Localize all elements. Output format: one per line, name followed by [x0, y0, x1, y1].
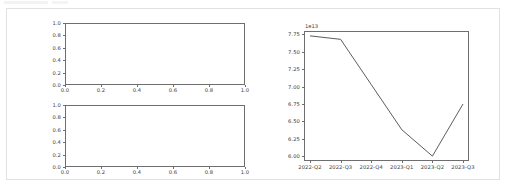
quarterly-line-chart: 1e136.006.256.506.757.007.257.507.752022… — [254, 9, 501, 180]
truncated-toolbar-strip — [0, 0, 508, 6]
x-tick-label: 0.8 — [197, 169, 221, 175]
lower-empty-axes — [65, 105, 245, 167]
x-tick-label: 0.2 — [89, 87, 113, 93]
x-tick-mark — [245, 167, 246, 169]
y-tick-mark — [63, 35, 65, 36]
y-tick-label: 0.8 — [41, 32, 61, 38]
y-tick-label: 0.2 — [41, 70, 61, 76]
notebook-output-cell: 0.00.20.40.60.81.00.00.20.40.60.81.00.00… — [6, 8, 500, 180]
x-tick-mark — [101, 85, 102, 87]
y-tick-label: 0.2 — [41, 152, 61, 158]
x-tick-mark — [209, 85, 210, 87]
x-tick-mark — [65, 85, 66, 87]
y-tick-mark — [63, 130, 65, 131]
y-tick-label: 0.6 — [41, 45, 61, 51]
x-tick-label: 0.0 — [53, 169, 77, 175]
figures-row: 0.00.20.40.60.81.00.00.20.40.60.81.00.00… — [7, 9, 499, 179]
x-tick-mark — [101, 167, 102, 169]
toolbar-ghost-item — [4, 1, 48, 4]
x-tick-mark — [173, 167, 174, 169]
y-tick-mark — [63, 23, 65, 24]
x-tick-label: 0.6 — [161, 169, 185, 175]
x-tick-label: 0.4 — [125, 169, 149, 175]
y-tick-label: 0.4 — [41, 57, 61, 63]
toolbar-ghost-item-secondary — [52, 1, 68, 4]
x-tick-label: 0.2 — [89, 169, 113, 175]
x-tick-mark — [137, 167, 138, 169]
y-tick-label: 0.8 — [41, 114, 61, 120]
chart-line-series — [254, 9, 501, 180]
y-tick-label: 1.0 — [41, 20, 61, 26]
x-tick-mark — [245, 85, 246, 87]
series-value-polyline — [310, 36, 463, 156]
x-tick-mark — [173, 85, 174, 87]
y-tick-mark — [63, 117, 65, 118]
x-tick-mark — [209, 167, 210, 169]
x-tick-label: 0.6 — [161, 87, 185, 93]
y-tick-mark — [63, 142, 65, 143]
y-tick-mark — [63, 48, 65, 49]
y-tick-label: 1.0 — [41, 102, 61, 108]
x-tick-mark — [65, 167, 66, 169]
x-tick-label: 0.8 — [197, 87, 221, 93]
y-tick-label: 0.6 — [41, 127, 61, 133]
y-tick-mark — [63, 105, 65, 106]
y-tick-mark — [63, 155, 65, 156]
x-tick-mark — [137, 85, 138, 87]
y-tick-mark — [63, 60, 65, 61]
x-tick-label: 0.4 — [125, 87, 149, 93]
y-tick-label: 0.4 — [41, 139, 61, 145]
x-tick-label: 0.0 — [53, 87, 77, 93]
empty-subplots-figure: 0.00.20.40.60.81.00.00.20.40.60.81.00.00… — [7, 9, 254, 180]
y-tick-mark — [63, 73, 65, 74]
upper-empty-axes — [65, 23, 245, 85]
